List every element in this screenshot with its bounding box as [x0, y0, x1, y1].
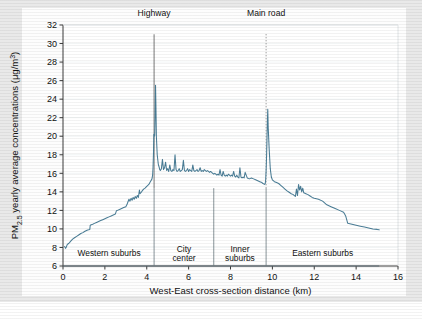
figure-background: 681012141618202224262830320246810121416H…	[0, 0, 422, 302]
y-tick-label: 32	[47, 20, 57, 30]
x-tick-label: 2	[102, 272, 107, 282]
y-axis-label-group: PM2.5 yearly average concentrations (μg/…	[9, 52, 23, 240]
zone-label-city-center: City	[177, 244, 192, 254]
y-tick-label: 10	[47, 224, 57, 234]
y-tick-label: 12	[47, 206, 57, 216]
zone-label-city-center: center	[172, 253, 195, 263]
zone-label-western-suburbs: Western suburbs	[77, 248, 140, 258]
pm25-cross-section-line-chart: 681012141618202224262830320246810121416H…	[0, 0, 422, 302]
y-tick-label: 30	[47, 39, 57, 49]
y-tick-label: 18	[47, 150, 57, 160]
zone-label-inner-suburbs: suburbs	[225, 253, 255, 263]
chart-container: 681012141618202224262830320246810121416H…	[0, 0, 422, 302]
y-tick-label: 16	[47, 169, 57, 179]
annotation-main-road: Main road	[247, 8, 285, 18]
x-tick-label: 4	[144, 272, 149, 282]
x-tick-label: 14	[351, 272, 361, 282]
page-margin-bottom	[0, 302, 422, 319]
x-tick-label: 0	[60, 272, 65, 282]
zone-label-inner-suburbs: Inner	[230, 244, 249, 254]
x-tick-label: 12	[309, 272, 319, 282]
y-tick-label: 20	[47, 131, 57, 141]
y-tick-label: 26	[47, 76, 57, 86]
y-axis-label: PM2.5 yearly average concentrations (μg/…	[9, 52, 23, 240]
x-axis-label: West-East cross-section distance (km)	[150, 285, 312, 296]
plot-area	[63, 25, 398, 266]
x-tick-label: 16	[393, 272, 403, 282]
y-tick-label: 28	[47, 57, 57, 67]
y-tick-label: 22	[47, 113, 57, 123]
x-tick-label: 6	[186, 272, 191, 282]
y-tick-label: 24	[47, 94, 57, 104]
annotation-highway: Highway	[138, 8, 172, 18]
y-tick-label: 6	[52, 261, 57, 271]
x-tick-label: 10	[267, 272, 277, 282]
zone-label-eastern-suburbs: Eastern suburbs	[292, 248, 353, 258]
y-tick-label: 14	[47, 187, 57, 197]
x-tick-label: 8	[228, 272, 233, 282]
y-tick-label: 8	[52, 243, 57, 253]
